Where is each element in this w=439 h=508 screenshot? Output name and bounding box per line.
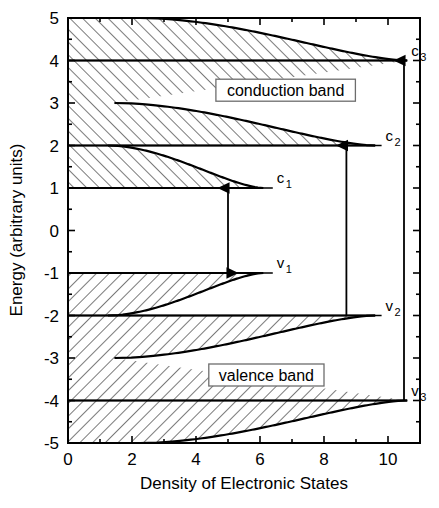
level-label-sub-v2: 2 bbox=[395, 306, 401, 318]
y-tick-label-1: 1 bbox=[50, 179, 59, 198]
y-axis-title: Energy (arbitrary units) bbox=[7, 144, 26, 317]
band-label-valence-band: valence band bbox=[219, 367, 314, 384]
x-tick-label-4: 4 bbox=[191, 450, 200, 469]
level-label-sub-c3: 3 bbox=[420, 51, 426, 63]
level-label-v2: v2 bbox=[386, 297, 401, 318]
y-tick-label--1: -1 bbox=[44, 264, 59, 283]
x-tick-label-10: 10 bbox=[379, 450, 398, 469]
level-label-sub-v3: 3 bbox=[420, 391, 426, 403]
x-tick-label-0: 0 bbox=[63, 450, 72, 469]
level-label-base-v2: v bbox=[386, 297, 394, 314]
level-label-v1: v1 bbox=[277, 254, 292, 275]
dos-figure: 543210-1-2-3-4-5 0246810 conduction band… bbox=[0, 0, 439, 508]
x-axis-title: Density of Electronic States bbox=[140, 474, 348, 493]
y-tick-label-3: 3 bbox=[50, 94, 59, 113]
dos-shaded-regions bbox=[68, 0, 407, 486]
y-tick-label-0: 0 bbox=[50, 222, 59, 241]
level-label-sub-c1: 1 bbox=[286, 178, 292, 190]
level-label-c2: c2 bbox=[386, 127, 401, 148]
level-label-sub-c2: 2 bbox=[395, 136, 401, 148]
level-label-sub-v1: 1 bbox=[286, 263, 292, 275]
band-label-conduction-band: conduction band bbox=[227, 82, 344, 99]
dos-chart-svg: 543210-1-2-3-4-5 0246810 conduction band… bbox=[0, 0, 439, 508]
y-tick-label--4: -4 bbox=[44, 392, 59, 411]
level-label-base-c1: c bbox=[277, 169, 285, 186]
level-label-base-v1: v bbox=[277, 254, 285, 271]
y-axis-tick-labels: 543210-1-2-3-4-5 bbox=[44, 9, 59, 453]
level-label-v3: v3 bbox=[411, 382, 426, 403]
y-tick-label-4: 4 bbox=[50, 52, 59, 71]
level-label-c3: c3 bbox=[411, 42, 426, 63]
x-axis-tick-labels: 0246810 bbox=[63, 450, 397, 469]
y-tick-label-5: 5 bbox=[50, 9, 59, 28]
level-label-base-c3: c bbox=[411, 42, 419, 59]
level-label-base-c2: c bbox=[386, 127, 394, 144]
y-tick-label-2: 2 bbox=[50, 137, 59, 156]
x-tick-label-8: 8 bbox=[319, 450, 328, 469]
optical-transition-arrows bbox=[228, 61, 404, 401]
level-label-c1: c1 bbox=[277, 169, 292, 190]
x-tick-label-2: 2 bbox=[127, 450, 136, 469]
y-tick-label--3: -3 bbox=[44, 349, 59, 368]
x-tick-label-6: 6 bbox=[255, 450, 264, 469]
y-tick-label--5: -5 bbox=[44, 434, 59, 453]
dos-curve-conduction-subband-c4 bbox=[193, 0, 407, 18]
level-label-base-v3: v bbox=[411, 382, 419, 399]
y-tick-label--2: -2 bbox=[44, 307, 59, 326]
